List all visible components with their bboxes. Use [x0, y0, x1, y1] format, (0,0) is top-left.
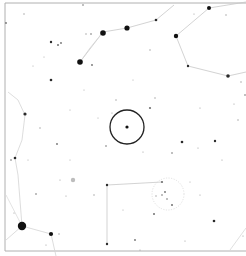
star: [93, 194, 94, 195]
star: [171, 152, 173, 154]
star-cluster-outline: [152, 178, 184, 210]
constellation-line: [8, 92, 25, 226]
star: [153, 213, 155, 215]
constellation-line: [176, 36, 246, 76]
star: [115, 99, 116, 100]
constellation-line: [80, 5, 174, 62]
constellation-line: [176, 2, 246, 36]
star: [106, 184, 108, 186]
star: [184, 240, 185, 241]
star-chart: [0, 0, 246, 256]
star: [65, 195, 66, 196]
star: [154, 97, 155, 98]
star: [197, 147, 198, 148]
constellation-line: [230, 228, 246, 250]
constellation-lines: [6, 2, 246, 256]
star: [155, 19, 158, 22]
star: [57, 44, 59, 46]
star: [139, 249, 140, 250]
star: [85, 33, 86, 34]
star: [124, 25, 129, 30]
galaxy-marker: [71, 178, 75, 182]
star: [190, 182, 191, 183]
deep-sky-objects: [71, 178, 184, 210]
star: [105, 145, 107, 147]
star: [193, 13, 194, 14]
star: [45, 244, 46, 245]
star: [199, 194, 200, 195]
constellation-line: [107, 182, 162, 244]
star: [33, 66, 34, 67]
star: [90, 33, 92, 35]
star: [50, 79, 53, 82]
star: [221, 159, 222, 160]
star: [84, 90, 85, 91]
star: [133, 80, 134, 81]
star: [70, 110, 71, 111]
star: [111, 112, 112, 113]
star: [164, 191, 166, 193]
star: [149, 49, 150, 50]
star: [10, 159, 12, 161]
star: [82, 4, 84, 6]
star: [23, 112, 26, 115]
star: [237, 119, 238, 120]
star: [5, 22, 7, 24]
star: [214, 140, 216, 142]
star: [106, 243, 108, 245]
star: [13, 212, 14, 213]
star: [134, 239, 136, 241]
star: [161, 181, 163, 183]
star: [242, 235, 243, 236]
star: [50, 41, 52, 43]
star: [14, 157, 17, 160]
star: [100, 30, 106, 36]
star: [244, 94, 246, 96]
star: [187, 65, 189, 67]
star: [233, 103, 234, 104]
star: [240, 81, 241, 82]
star: [207, 6, 211, 10]
star: [171, 204, 173, 206]
star: [161, 194, 163, 196]
star: [35, 193, 37, 195]
star: [23, 13, 24, 14]
star: [181, 141, 184, 144]
star: [174, 34, 178, 38]
star: [60, 42, 62, 44]
star: [59, 179, 60, 180]
target-star: [125, 125, 128, 128]
star: [28, 160, 29, 161]
star: [166, 198, 168, 200]
star: [77, 59, 83, 65]
star: [142, 151, 143, 152]
star: [49, 232, 53, 236]
star: [155, 195, 156, 196]
star: [225, 14, 226, 15]
star: [58, 233, 59, 234]
star: [98, 118, 99, 119]
star: [91, 64, 93, 66]
star: [70, 160, 71, 161]
star: [123, 210, 124, 211]
star: [149, 107, 151, 109]
target-marker: [110, 110, 144, 144]
star: [56, 143, 58, 145]
star: [213, 220, 216, 223]
star: [199, 107, 200, 108]
star: [18, 222, 26, 230]
star-chart-canvas: [0, 0, 246, 256]
star: [226, 74, 230, 78]
star: [39, 127, 40, 128]
star: [44, 57, 45, 58]
stars: [5, 4, 246, 250]
